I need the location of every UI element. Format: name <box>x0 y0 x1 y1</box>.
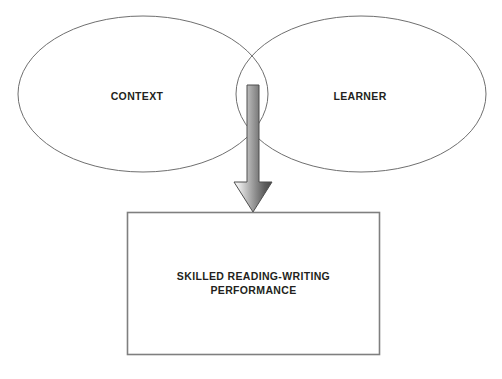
diagram-canvas: CONTEXT LEARNER SKILLED READING-WRITING … <box>0 0 502 379</box>
outcome-label-line-2: PERFORMANCE <box>127 284 380 298</box>
outcome-label-line-1: SKILLED READING-WRITING <box>127 270 380 284</box>
diagram-graphics <box>0 0 502 379</box>
down-arrow-icon <box>234 85 272 212</box>
rectangle-outcome-label: SKILLED READING-WRITING PERFORMANCE <box>127 270 380 297</box>
ellipse-context-label: CONTEXT <box>77 90 197 103</box>
ellipse-learner-label: LEARNER <box>300 90 420 103</box>
